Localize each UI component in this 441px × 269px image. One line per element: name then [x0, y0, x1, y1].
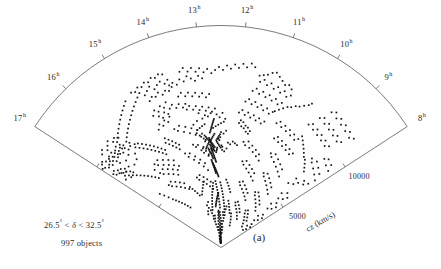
- galaxy-point: [124, 147, 126, 149]
- galaxy-point: [235, 208, 237, 210]
- galaxy-point: [175, 147, 177, 149]
- galaxy-point: [255, 149, 257, 151]
- galaxy-point: [311, 158, 313, 160]
- galaxy-point: [219, 227, 221, 229]
- galaxy-point: [218, 139, 220, 141]
- galaxy-point: [130, 176, 132, 178]
- galaxy-point: [284, 90, 286, 92]
- galaxy-point: [330, 164, 332, 166]
- galaxy-point: [224, 118, 226, 120]
- galaxy-point: [242, 229, 244, 231]
- galaxy-point: [216, 150, 218, 152]
- galaxy-point: [303, 105, 305, 107]
- galaxy-point: [277, 141, 279, 143]
- galaxy-point: [215, 183, 217, 185]
- galaxy-point: [117, 170, 119, 172]
- galaxy-point: [107, 149, 109, 151]
- galaxy-point: [285, 144, 287, 146]
- galaxy-point: [246, 66, 248, 68]
- galaxy-point: [195, 146, 197, 148]
- ra-tick-14h: [147, 33, 148, 37]
- galaxy-point: [353, 138, 355, 140]
- galaxy-point: [247, 127, 249, 129]
- galaxy-point: [222, 214, 224, 216]
- galaxy-point: [165, 142, 167, 144]
- galaxy-point: [328, 129, 330, 131]
- galaxy-point: [147, 148, 149, 150]
- galaxy-point: [289, 148, 291, 150]
- galaxy-point: [211, 124, 213, 126]
- galaxy-point: [112, 141, 114, 143]
- galaxy-point: [147, 81, 149, 83]
- galaxy-point: [168, 159, 170, 161]
- galaxy-point: [158, 129, 160, 131]
- galaxy-point: [179, 71, 181, 73]
- galaxy-point: [321, 134, 323, 136]
- galaxy-point: [277, 158, 279, 160]
- galaxy-point: [243, 141, 245, 143]
- galaxy-point: [255, 155, 257, 157]
- galaxy-point: [221, 190, 223, 192]
- galaxy-point: [107, 140, 109, 142]
- galaxy-point: [178, 144, 180, 146]
- galaxy-point: [204, 114, 206, 116]
- galaxy-point: [238, 122, 240, 124]
- galaxy-point: [275, 98, 277, 100]
- galaxy-point: [205, 110, 207, 112]
- galaxy-point: [257, 219, 259, 221]
- ra-tick-11h: [293, 33, 294, 37]
- galaxy-point: [178, 201, 180, 203]
- galaxy-point: [242, 160, 244, 162]
- galaxy-point: [229, 222, 231, 224]
- galaxy-point: [211, 200, 213, 202]
- dec-lower-value: 26.5: [44, 220, 60, 230]
- galaxy-point: [113, 170, 115, 172]
- galaxy-point: [271, 83, 273, 85]
- galaxy-point: [202, 118, 204, 120]
- galaxy-point: [248, 141, 250, 143]
- galaxy-point: [221, 187, 223, 189]
- galaxy-point: [120, 114, 122, 116]
- galaxy-point: [216, 186, 218, 188]
- galaxy-point: [266, 108, 268, 110]
- galaxy-point: [215, 204, 217, 206]
- galaxy-point: [221, 145, 223, 147]
- galaxy-point: [195, 71, 197, 73]
- galaxy-point: [292, 153, 294, 155]
- galaxy-point: [216, 141, 218, 143]
- galaxy-point: [229, 143, 231, 145]
- galaxy-point: [177, 96, 179, 98]
- galaxy-point: [202, 148, 204, 150]
- galaxy-point: [215, 172, 217, 174]
- galaxy-point: [277, 103, 279, 105]
- galaxy-point: [332, 135, 334, 137]
- galaxy-point: [223, 217, 225, 219]
- galaxy-point: [154, 150, 156, 152]
- galaxy-point: [219, 235, 221, 237]
- galaxy-point: [218, 144, 220, 146]
- galaxy-point: [128, 123, 130, 125]
- galaxy-point: [182, 67, 184, 69]
- galaxy-point: [227, 142, 229, 144]
- galaxy-point: [199, 179, 201, 181]
- galaxy-point: [239, 208, 241, 210]
- galaxy-point: [172, 169, 174, 171]
- galaxy-point: [193, 124, 195, 126]
- galaxy-point: [279, 76, 281, 78]
- galaxy-point: [188, 105, 190, 107]
- galaxy-point: [162, 94, 164, 96]
- galaxy-point: [246, 225, 248, 227]
- galaxy-point: [125, 101, 127, 103]
- galaxy-point: [124, 175, 126, 177]
- galaxy-point: [297, 138, 299, 140]
- galaxy-point: [198, 162, 200, 164]
- galaxy-point: [123, 172, 125, 174]
- galaxy-point: [218, 223, 220, 225]
- galaxy-point: [251, 103, 253, 105]
- galaxy-point: [252, 180, 254, 182]
- galaxy-point: [168, 184, 170, 186]
- galaxy-point: [221, 149, 223, 151]
- ra-label-13h: 13h: [188, 4, 201, 15]
- galaxy-point: [162, 152, 164, 154]
- galaxy-point: [302, 140, 304, 142]
